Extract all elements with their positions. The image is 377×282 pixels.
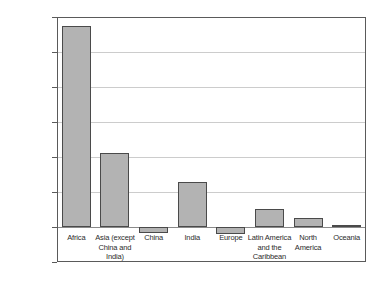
bar — [255, 209, 284, 227]
x-axis-tick-label: Oceania — [323, 233, 370, 243]
x-axis-tick-label-line: China and — [92, 243, 139, 253]
x-axis-category-labels: AfricaAsia (exceptChina andIndia)ChinaIn… — [57, 233, 366, 279]
x-axis-tick-label-line: America — [285, 243, 332, 253]
bar-series — [57, 17, 366, 262]
bar — [100, 153, 129, 227]
bar — [294, 218, 323, 227]
bar — [332, 225, 361, 227]
x-axis-tick-label-line: India) — [92, 252, 139, 262]
x-axis-tick-label-line: Caribbean — [246, 252, 293, 262]
bar — [178, 182, 207, 227]
x-axis-tick-label-line: Oceania — [323, 233, 370, 243]
bar-chart: 1,200,0001,000,000800,000600,000400,0002… — [0, 0, 377, 282]
bar — [62, 26, 91, 227]
